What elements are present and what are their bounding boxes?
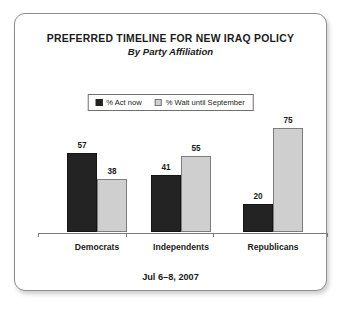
bar-column[interactable]: 75 [273,117,303,232]
bar-value-label: 57 [77,142,86,150]
bar-value-label: 75 [283,117,292,125]
axis-tick [126,233,127,237]
legend-label: % Wait until September [166,98,245,107]
bar[interactable] [151,175,181,232]
chart-card: PREFERRED TIMELINE FOR NEW IRAQ POLICY B… [14,13,327,291]
bar[interactable] [97,179,127,232]
legend-label: % Act now [106,98,141,107]
bar-value-label: 41 [161,164,170,172]
category-label-independents: Independents [153,242,209,252]
footer-date: Jul 6–8, 2007 [15,272,326,282]
axis-tick [327,233,328,237]
axis-tick [213,233,214,237]
plot-area: 573841552075 [24,114,319,232]
category-label-democrats: Democrats [75,242,119,252]
bar-column[interactable]: 41 [151,164,181,232]
x-axis-category-labels: DemocratsIndependentsRepublicans [24,242,319,256]
bar[interactable] [243,204,273,232]
bar-group: 4155 [151,114,211,232]
bar-value-label: 55 [191,145,200,153]
bar-column[interactable]: 20 [243,193,273,232]
bar[interactable] [273,128,303,232]
bar-column[interactable]: 38 [97,168,127,232]
page-title: PREFERRED TIMELINE FOR NEW IRAQ POLICY [15,33,326,44]
bar-group: 2075 [243,114,303,232]
bar-group: 5738 [67,114,127,232]
chart-legend: % Act now% Wait until September [87,94,254,111]
bar-value-label: 20 [253,193,262,201]
chart-subtitle: By Party Affiliation [15,46,326,57]
legend-swatch-icon [155,99,162,106]
bar-column[interactable]: 57 [67,142,97,232]
title-block: PREFERRED TIMELINE FOR NEW IRAQ POLICY B… [15,33,326,57]
category-label-republicans: Republicans [247,242,298,252]
axis-tick [38,233,39,237]
legend-item[interactable]: % Wait until September [155,98,245,107]
legend-item[interactable]: % Act now [95,98,141,107]
bar[interactable] [67,153,97,232]
bar[interactable] [181,156,211,232]
legend-swatch-icon [95,99,102,106]
bar-column[interactable]: 55 [181,145,211,232]
x-axis-line [38,233,328,234]
bar-value-label: 38 [107,168,116,176]
